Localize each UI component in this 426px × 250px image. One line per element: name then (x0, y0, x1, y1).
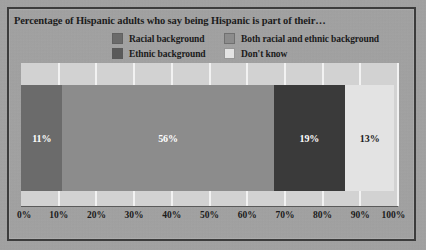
x-tick-label: 80% (313, 210, 332, 220)
bar-segment-label: 56% (158, 133, 178, 144)
x-tick-label: 30% (125, 210, 144, 220)
chart-legend: Racial background Both racial and ethnic… (112, 31, 412, 61)
legend-item-ethnic-background[interactable]: Ethnic background (112, 46, 224, 61)
plot-area: 11%56%19%13% (21, 63, 398, 206)
chart-figure: Percentage of Hispanic adults who say be… (0, 0, 426, 250)
x-tick-label: 10% (49, 210, 68, 220)
legend-label: Racial background (129, 34, 204, 44)
x-tick-label: 20% (87, 210, 106, 220)
legend-swatch-icon (224, 48, 235, 59)
bar-segment-label: 19% (300, 133, 320, 144)
bar-segment-label: 11% (32, 133, 51, 144)
stacked-bar: 11%56%19%13% (21, 85, 394, 191)
legend-swatch-icon (112, 48, 123, 59)
legend-item-racial-background[interactable]: Racial background (112, 31, 224, 46)
x-tick-label: 50% (200, 210, 219, 220)
x-tick-label: 40% (162, 210, 181, 220)
legend-label: Ethnic background (129, 49, 206, 59)
x-tick-label: 0% (17, 210, 31, 220)
gridline (397, 63, 399, 206)
bar-segment[interactable]: 56% (62, 85, 273, 191)
x-tick-label: 60% (238, 210, 257, 220)
bar-segment-label: 13% (360, 133, 380, 144)
chart-title: Percentage of Hispanic adults who say be… (14, 15, 414, 26)
legend-swatch-icon (112, 33, 123, 44)
x-tick-label: 90% (351, 210, 370, 220)
x-tick-label: 70% (275, 210, 294, 220)
bar-segment[interactable]: 19% (274, 85, 346, 191)
bar-segment[interactable]: 13% (345, 85, 394, 191)
x-tick-label: 100% (381, 210, 405, 220)
legend-label: Don't know (241, 49, 287, 59)
x-axis: 0%10%20%30%40%50%60%70%80%90%100% (21, 206, 398, 227)
legend-label: Both racial and ethnic background (241, 34, 379, 44)
legend-swatch-icon (224, 33, 235, 44)
legend-item-dont-know[interactable]: Don't know (224, 46, 412, 61)
bar-segment[interactable]: 11% (21, 85, 62, 191)
legend-item-both-racial-and-ethnic-background[interactable]: Both racial and ethnic background (224, 31, 412, 46)
